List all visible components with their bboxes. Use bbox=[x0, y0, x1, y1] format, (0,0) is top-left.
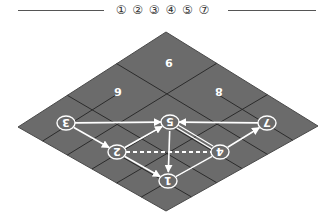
svg-text:3: 3 bbox=[62, 116, 70, 129]
node-4: 4 bbox=[211, 145, 229, 159]
svg-text:7: 7 bbox=[263, 116, 271, 129]
svg-text:4: 4 bbox=[216, 145, 224, 158]
svg-text:5: 5 bbox=[166, 115, 174, 128]
tile-label: 9 bbox=[165, 56, 173, 69]
node-7: 7 bbox=[258, 116, 276, 130]
node-2: 2 bbox=[108, 145, 126, 159]
tile-label: 6 bbox=[114, 85, 122, 98]
node-1: 1 bbox=[159, 174, 177, 188]
edge bbox=[179, 122, 258, 123]
node-5: 5 bbox=[161, 115, 179, 129]
isometric-graph-diagram: 968123457 bbox=[0, 0, 325, 222]
svg-text:2: 2 bbox=[113, 145, 121, 158]
edge bbox=[75, 122, 161, 123]
tile-label: 8 bbox=[215, 85, 223, 98]
svg-text:1: 1 bbox=[164, 174, 172, 187]
node-3: 3 bbox=[57, 116, 75, 130]
